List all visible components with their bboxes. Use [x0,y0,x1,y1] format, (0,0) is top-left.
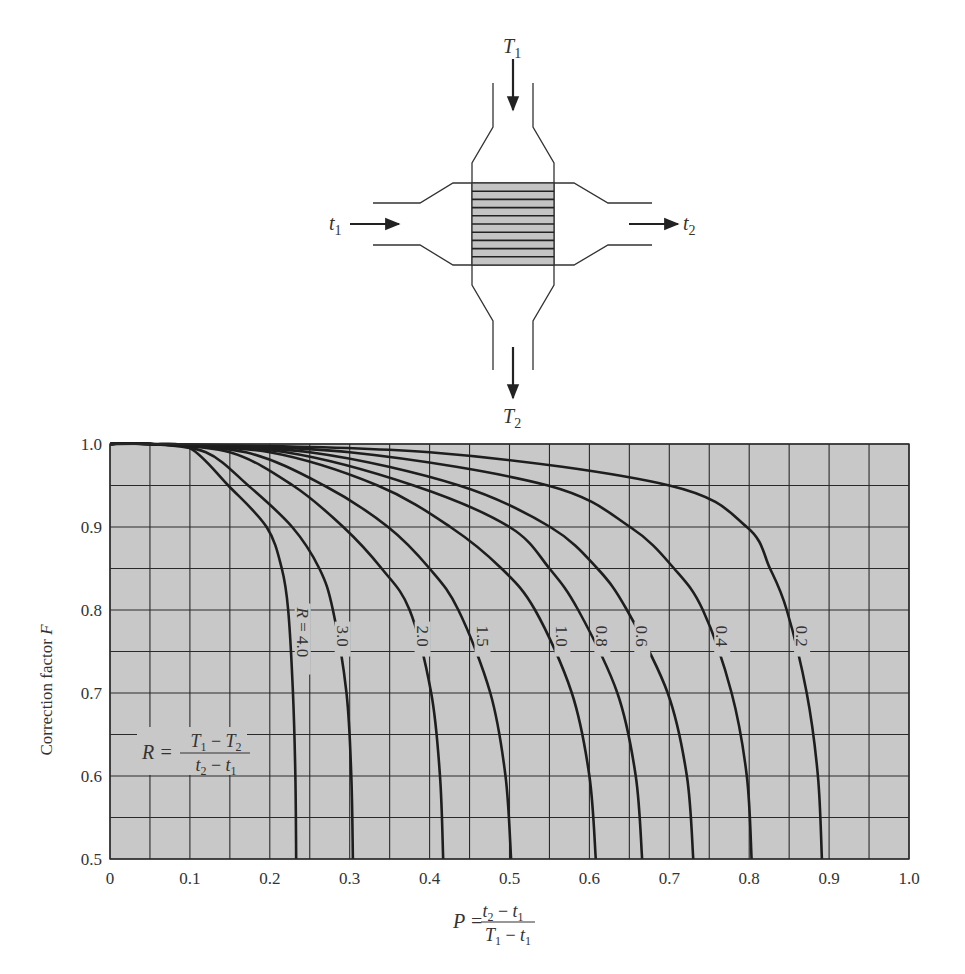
x-tick-label: 0 [106,869,115,888]
curve-label: R = 4.0 [293,607,312,658]
hot-inlet-label: T1 [503,35,521,61]
curve-label: 0.8 [592,626,611,647]
y-tick-label: 0.9 [81,518,102,537]
x-tick-label: 0.2 [259,869,280,888]
figure: T1 T2 t1 t2 R = 4.03.02.01.51.00.80.60.4… [0,0,965,974]
x-tick-label: 1.0 [898,869,919,888]
curve-label: 1.5 [473,626,492,647]
x-tick-label: 0.5 [499,869,520,888]
x-axis-label-p-formula: P = t2 − t1 T1 − t1 [452,901,535,948]
r-formula-lhs: R = [141,741,173,763]
p-formula-denominator: T1 − t1 [485,925,531,948]
x-tick-label: 0.7 [659,869,681,888]
curve-label: 1.0 [552,626,571,647]
cold-outlet-label: t2 [683,212,696,238]
cross-flow-heat-exchanger-diagram [350,59,678,398]
r-formula-annotation: R = T1 − T2 t2 − t1 [137,727,250,778]
curve-label: 0.6 [632,626,651,647]
x-tick-label: 0.8 [739,869,760,888]
x-axis-tick-labels: 00.10.20.30.40.50.60.70.80.91.0 [106,869,920,888]
curve-label: 0.2 [792,626,811,647]
y-tick-label: 1.0 [81,435,102,454]
y-axis-label: Correction factor F [37,624,56,756]
x-tick-label: 0.3 [339,869,360,888]
cold-inlet-label: t1 [329,212,342,238]
y-tick-label: 0.8 [81,601,102,620]
p-formula-numerator: t2 − t1 [482,901,523,924]
y-tick-label: 0.7 [81,684,103,703]
y-axis-tick-labels: 1.00.90.80.70.60.5 [81,435,103,869]
x-tick-label: 0.6 [579,869,600,888]
curve-label: 0.4 [712,626,731,648]
curve-label: 3.0 [333,626,352,647]
figure-canvas: T1 T2 t1 t2 R = 4.03.02.01.51.00.80.60.4… [0,0,965,974]
correction-factor-chart: R = 4.03.02.01.51.00.80.60.40.2 00.10.20… [37,435,920,948]
y-tick-label: 0.6 [81,767,102,786]
p-formula-lhs: P = [452,910,483,932]
x-tick-label: 0.4 [419,869,441,888]
curve-label: 2.0 [413,626,432,647]
x-tick-label: 0.1 [179,869,200,888]
y-tick-label: 0.5 [81,850,102,869]
r-formula-numerator: T1 − T2 [190,731,241,754]
x-tick-label: 0.9 [818,869,839,888]
hot-outlet-label: T2 [503,405,521,431]
